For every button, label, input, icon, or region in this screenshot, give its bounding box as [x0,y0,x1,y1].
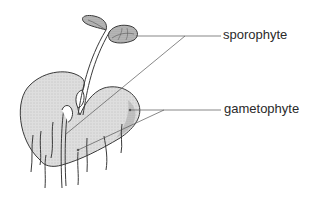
gametophyte-label: gametophyte [224,102,299,115]
sporophyte-label: sporophyte [223,28,287,41]
gametophyte-shape [20,72,140,167]
